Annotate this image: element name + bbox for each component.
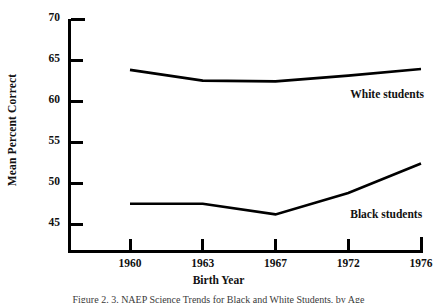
y-tick-label-50: 50 [26,175,60,187]
figure-caption: Figure 2. 3. NAEP Science Trends for Bla… [0,294,437,303]
x-axis-title: Birth Year [0,274,437,286]
y-tick-label-55: 55 [26,134,60,146]
x-tick-label-1960: 1960 [107,257,153,269]
series-label-black-students: Black students [350,208,422,220]
y-axis-title: Mean Percent Correct [6,0,18,50]
x-tick-label-1972: 1972 [325,257,371,269]
figure-container: Mean Percent Correct White students Blac… [0,0,437,303]
series-line-white-students [130,69,421,81]
series-label-white-students: White students [350,88,424,100]
x-tick-label-1963: 1963 [180,257,226,269]
y-tick-label-70: 70 [26,11,60,23]
y-tick-label-65: 65 [26,52,60,64]
y-tick-label-60: 60 [26,93,60,105]
x-tick-label-1976: 1976 [398,257,437,269]
series-line-black-students [130,164,421,215]
y-axis-title-text: Mean Percent Correct [6,50,18,210]
plot-area: White students Black students [68,19,423,253]
y-tick-label-45: 45 [26,216,60,228]
x-tick-label-1967: 1967 [253,257,299,269]
